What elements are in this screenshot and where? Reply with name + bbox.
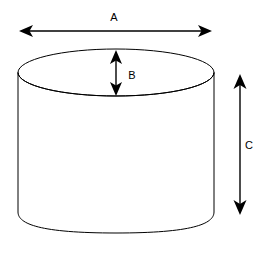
dimension-arrow-b: B <box>110 50 136 96</box>
cylinder-diagram: A B C <box>0 0 271 255</box>
dimension-label-c: C <box>245 139 253 151</box>
diagram-canvas: A B C <box>0 0 271 255</box>
dimension-arrow-c: C <box>234 74 254 215</box>
dimension-label-a: A <box>110 11 118 23</box>
cylinder-body-path <box>18 73 214 234</box>
dimension-label-b: B <box>128 69 135 81</box>
dimension-arrow-a: A <box>19 11 212 37</box>
